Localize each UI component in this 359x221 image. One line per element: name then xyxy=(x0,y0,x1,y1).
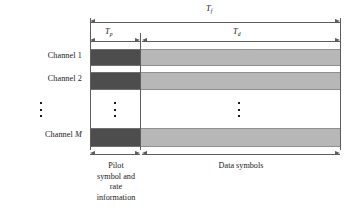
channel-label-2: Channel 2 xyxy=(0,74,82,83)
arrow-left-data xyxy=(142,38,147,42)
ellipsis-channel-labels xyxy=(40,102,42,117)
bottom-dimension-pilot-line xyxy=(90,154,140,155)
ellipsis-data-column xyxy=(238,102,240,117)
arrow-right-data-bottom xyxy=(335,151,340,155)
data-block-channel-2 xyxy=(141,72,340,90)
dimension-data-line xyxy=(142,41,340,42)
ellipsis-pilot-column xyxy=(114,102,116,117)
bottom-dimension-data-line xyxy=(142,154,340,155)
caption-data-line-1: Data symbols xyxy=(185,161,297,172)
caption-data: Data symbols xyxy=(185,161,297,172)
caption-pilot-line-3: rate xyxy=(70,182,162,193)
channel-label-1: Channel 1 xyxy=(0,51,82,60)
dimension-label-frame: Tf xyxy=(206,4,212,13)
pilot-block-channel-1 xyxy=(91,49,140,66)
arrow-left-pilot-bottom xyxy=(90,151,95,155)
dimension-frame-line xyxy=(90,22,340,23)
figure-canvas: Tf Tp Td Channel 1 Channel 2 xyxy=(0,0,359,221)
caption-pilot: Pilot symbol and rate information xyxy=(70,161,162,203)
boundary-line-right xyxy=(340,18,341,150)
arrow-left-data-bottom xyxy=(142,151,147,155)
dimension-label-pilot: Tp xyxy=(105,27,112,36)
dimension-label-data: Td xyxy=(233,27,240,36)
dimension-pilot-line xyxy=(90,41,140,42)
pilot-block-channel-2 xyxy=(91,72,140,90)
caption-pilot-line-4: information xyxy=(70,193,162,204)
channel-label-m: Channel M xyxy=(0,130,82,139)
data-block-channel-1 xyxy=(141,49,340,66)
arrow-right-pilot-bottom xyxy=(135,151,140,155)
pilot-block-channel-m xyxy=(91,128,140,147)
caption-pilot-line-2: symbol and xyxy=(70,172,162,183)
data-block-channel-m xyxy=(141,128,340,147)
caption-pilot-line-1: Pilot xyxy=(70,161,162,172)
